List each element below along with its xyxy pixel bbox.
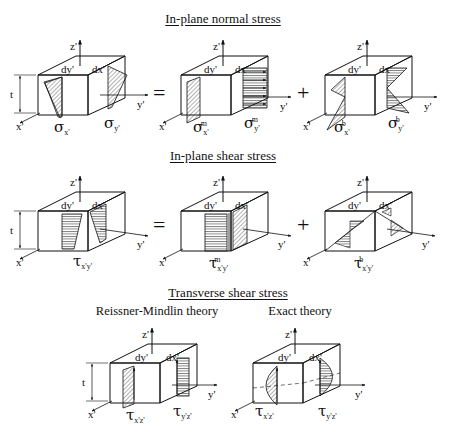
- svg-text:x': x': [88, 408, 96, 420]
- svg-text:τx'z': τx'z': [255, 402, 274, 421]
- svg-text:dy': dy': [278, 351, 291, 363]
- svg-text:x': x': [303, 120, 311, 132]
- cube-normal-total: z' y' x' dy' dx' t σx' σy': [10, 40, 148, 137]
- svg-text:dy': dy': [204, 199, 217, 211]
- cube-normal-bending: z' y' x' dy' dx' σx'b σy'b: [303, 40, 437, 137]
- svg-text:τy'z': τy'z': [318, 402, 337, 421]
- y-axis-label: y': [137, 98, 145, 110]
- svg-text:τx'z': τx'z': [126, 406, 145, 425]
- svg-text:y': y': [424, 100, 432, 112]
- svg-text:t: t: [10, 224, 13, 236]
- dx-label: dx': [92, 63, 105, 75]
- thickness-label: t: [10, 88, 13, 100]
- svg-text:dy': dy': [61, 199, 74, 211]
- sigma-y-label: σy': [104, 114, 120, 133]
- svg-text:τx'y': τx'y': [73, 252, 93, 271]
- svg-text:y': y': [278, 238, 286, 250]
- svg-text:z': z': [285, 328, 292, 340]
- svg-text:σx'm: σx'm: [193, 118, 209, 137]
- sigma-y-distribution: [108, 66, 127, 109]
- svg-text:y': y': [137, 238, 145, 250]
- svg-text:x': x': [16, 256, 24, 268]
- svg-text:=: =: [153, 212, 165, 237]
- svg-text:z': z': [213, 176, 220, 188]
- svg-text:σy'b: σy'b: [388, 114, 404, 133]
- sigma-x-label: σx': [54, 118, 70, 137]
- svg-text:dy': dy': [135, 351, 148, 363]
- cube-shear-bending: z' y' x' dy' dx' τx'y'b: [303, 176, 435, 273]
- svg-text:y': y': [280, 100, 288, 112]
- svg-text:y': y': [355, 388, 363, 400]
- dy-label: dy': [61, 63, 74, 75]
- cube-normal-membrane: z' y' x' dy' dx' σx'm σy'm: [159, 40, 291, 137]
- svg-text:+: +: [297, 212, 309, 237]
- equals-operator: =: [153, 80, 165, 105]
- svg-text:σx'b: σx'b: [334, 118, 350, 137]
- svg-text:y': y': [208, 388, 216, 400]
- cube-shear-membrane: z' y' x' dy' dx' τx'y'm: [159, 176, 291, 273]
- cube-transverse-exact: z' y' x' dy' dx' τx'z' τy'z': [231, 328, 365, 421]
- svg-text:t: t: [82, 376, 85, 388]
- svg-text:dy': dy': [204, 63, 217, 75]
- sigma-x-distribution: [44, 77, 62, 118]
- svg-text:z': z': [357, 40, 364, 52]
- svg-text:dy': dy': [348, 199, 361, 211]
- svg-text:x': x': [231, 408, 239, 420]
- svg-text:τx'y'm: τx'y'm: [209, 254, 229, 273]
- svg-text:τy'z': τy'z': [173, 402, 192, 421]
- svg-text:τx'y'b: τx'y'b: [354, 254, 374, 273]
- z-axis-label: z': [70, 40, 77, 52]
- cube-shear-total: z' y' x' dy' dx' t τx'y': [10, 176, 148, 271]
- svg-text:σy'm: σy'm: [244, 114, 260, 133]
- stress-diagram: z' y' x' dy' dx' t σx' σy' = z' y' x' dy…: [0, 0, 450, 436]
- svg-text:z': z': [357, 176, 364, 188]
- svg-text:z': z': [70, 176, 77, 188]
- svg-text:z': z': [213, 40, 220, 52]
- svg-text:z': z': [142, 328, 149, 340]
- svg-text:dy': dy': [348, 63, 361, 75]
- svg-text:x': x': [159, 120, 167, 132]
- svg-text:x': x': [159, 256, 167, 268]
- x-axis-label: x': [16, 120, 24, 132]
- svg-text:y': y': [422, 238, 430, 250]
- svg-text:x': x': [303, 256, 311, 268]
- cube-transverse-reissner-mindlin: z' y' x' dy' dx' t τx'z' τy'z': [82, 328, 217, 425]
- plus-operator: +: [297, 80, 309, 105]
